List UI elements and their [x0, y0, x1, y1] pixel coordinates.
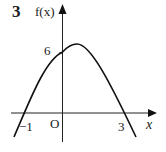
y-axis-arrow-icon [59, 4, 67, 14]
x-axis-arrow-icon [148, 109, 157, 117]
y-tick-label-6: 6 [44, 44, 51, 57]
x-tick-label-3: 3 [118, 120, 125, 133]
x-axis-label: x [146, 118, 152, 132]
origin-label: O [50, 117, 59, 130]
x-tick-label-neg1: −1 [19, 120, 33, 133]
y-axis-label: f(x) [35, 5, 55, 18]
